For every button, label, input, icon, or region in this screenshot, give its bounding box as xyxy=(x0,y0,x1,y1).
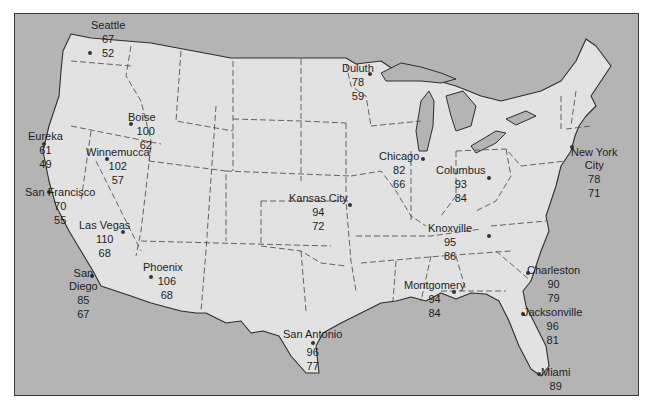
temp-high: 90 xyxy=(527,277,580,291)
temp-high: 96 xyxy=(523,319,582,333)
temp-low: 59 xyxy=(342,89,374,103)
temp-low: 57 xyxy=(86,173,150,187)
city-name-line2: City xyxy=(571,159,617,172)
temp-high: 100 xyxy=(128,124,156,138)
city-name: Winnemucca xyxy=(86,146,150,159)
city-miami: Miami 89 81 xyxy=(541,366,570,396)
city-columbus: Columbus 93 84 xyxy=(436,164,486,205)
city-name: Duluth xyxy=(342,62,374,75)
temp-high: 93 xyxy=(436,177,486,191)
city-name: Phoenix xyxy=(143,261,183,274)
temp-low: 77 xyxy=(283,359,342,373)
temp-high: 110 xyxy=(79,232,130,246)
city-chicago: Chicago 82 66 xyxy=(379,150,419,191)
temp-low: 86 xyxy=(428,249,472,263)
city-name: Eureka xyxy=(28,130,63,143)
city-new-york-city: New York City 78 71 xyxy=(571,146,617,200)
city-san-diego: San Diego 85 67 xyxy=(69,267,98,321)
temp-low: 68 xyxy=(143,288,183,302)
city-seattle: Seattle 67 52 xyxy=(91,19,125,60)
temp-high: 94 xyxy=(289,205,348,219)
city-name: San Antonio xyxy=(283,328,342,341)
temp-low: 49 xyxy=(28,157,63,171)
temp-high: 70 xyxy=(25,199,95,213)
city-name: Montgomery xyxy=(404,279,465,292)
city-dot-chicago xyxy=(421,157,425,161)
city-name: Jacksonville xyxy=(523,306,582,319)
temp-low: 84 xyxy=(404,306,465,320)
city-san-antonio: San Antonio 96 77 xyxy=(283,328,342,373)
city-charleston: Charleston 90 79 xyxy=(527,264,580,305)
city-name: Boise xyxy=(128,111,156,124)
temp-high: 85 xyxy=(69,293,98,307)
city-name: San xyxy=(69,267,98,280)
temp-low: 81 xyxy=(541,393,570,396)
city-eureka: Eureka 61 49 xyxy=(28,130,63,171)
city-name: San Francisco xyxy=(25,186,95,199)
city-duluth: Duluth 78 59 xyxy=(342,62,374,103)
temp-high: 102 xyxy=(86,159,150,173)
city-dot-kansas-city xyxy=(348,203,352,207)
temp-high: 61 xyxy=(28,143,63,157)
temp-low: 66 xyxy=(379,177,419,191)
temp-high: 94 xyxy=(404,292,465,306)
city-winnemucca: Winnemucca 102 57 xyxy=(86,146,150,187)
city-name: Columbus xyxy=(436,164,486,177)
temp-high: 95 xyxy=(428,235,472,249)
lake-superior xyxy=(381,63,456,83)
city-name: New York xyxy=(571,146,617,159)
temp-low: 52 xyxy=(91,46,125,60)
city-las-vegas: Las Vegas 110 68 xyxy=(79,219,130,260)
temp-high: 82 xyxy=(379,163,419,177)
temp-high: 67 xyxy=(91,32,125,46)
city-name: Miami xyxy=(541,366,570,379)
city-kansas-city: Kansas City 94 72 xyxy=(289,192,348,233)
city-phoenix: Phoenix 106 68 xyxy=(143,261,183,302)
city-name: Kansas City xyxy=(289,192,348,205)
city-name: Knoxville xyxy=(428,222,472,235)
temp-low: 67 xyxy=(69,307,98,321)
city-jacksonville: Jacksonville 96 81 xyxy=(523,306,582,347)
city-montgomery: Montgomery 94 84 xyxy=(404,279,465,320)
temp-high: 106 xyxy=(143,274,183,288)
city-name: Las Vegas xyxy=(79,219,130,232)
temp-low: 81 xyxy=(523,333,582,347)
temp-low: 84 xyxy=(436,191,486,205)
city-knoxville: Knoxville 95 86 xyxy=(428,222,472,263)
temp-high: 78 xyxy=(571,172,617,186)
temp-low: 79 xyxy=(527,291,580,305)
city-dot-columbus xyxy=(487,176,491,180)
city-name-line2: Diego xyxy=(69,280,98,293)
temp-low: 72 xyxy=(289,219,348,233)
temp-high: 78 xyxy=(342,75,374,89)
city-name: Chicago xyxy=(379,150,419,163)
temp-high: 96 xyxy=(283,345,342,359)
us-weather-map: Seattle 67 52 Boise 100 62 Eureka 61 49 … xyxy=(14,13,639,396)
temp-low: 71 xyxy=(571,186,617,200)
city-dot-knoxville xyxy=(487,234,491,238)
temp-high: 89 xyxy=(541,379,570,393)
city-name: Charleston xyxy=(527,264,580,277)
city-name: Seattle xyxy=(91,19,125,32)
temp-low: 68 xyxy=(79,246,130,260)
